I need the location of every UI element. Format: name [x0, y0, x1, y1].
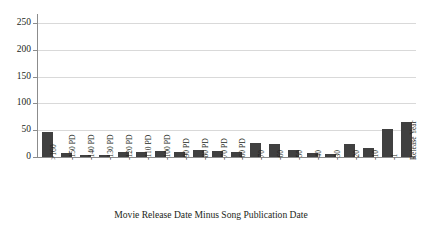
y-tick-label: 200 [1, 45, 31, 55]
x-tick-label: -90 PD [183, 138, 191, 160]
y-tick-mark [33, 50, 38, 51]
x-tick-label: -110 PD [145, 135, 153, 160]
x-tick-label: -150 PD [69, 134, 77, 160]
x-tick-label: -80 PD [202, 138, 210, 160]
y-tick-label: 150 [1, 72, 31, 82]
x-tick-label: -1 [391, 154, 399, 160]
x-tick-label: -70 PD [221, 138, 229, 160]
y-tick-mark [33, 103, 38, 104]
x-tick-label: -20 [353, 150, 361, 160]
x-tick-label: -60 PD [239, 138, 247, 160]
y-tick-mark [33, 157, 38, 158]
y-tick-mark [33, 130, 38, 131]
y-axis-tick-labels: 250200150100500 [0, 0, 31, 234]
y-tick-label: 100 [1, 98, 31, 108]
x-tick-label: >160 [50, 144, 58, 160]
y-tick-mark [33, 23, 38, 24]
x-axis-title: Movie Release Date Minus Song Publicatio… [0, 209, 422, 221]
y-tick-label: 250 [1, 18, 31, 28]
x-tick-label: -70 [258, 150, 266, 160]
y-tick-label: 0 [1, 152, 31, 162]
y-tick-mark [33, 77, 38, 78]
x-tick-label: Release Year [410, 121, 418, 160]
x-tick-label: -60 [277, 150, 285, 160]
x-tick-label: -130 PD [107, 134, 115, 160]
x-tick-label: -120 PD [126, 134, 134, 160]
x-tick-label: -30 [334, 150, 342, 160]
x-tick-label: -50 [296, 150, 304, 160]
x-tick-label: -140 PD [88, 134, 96, 160]
x-axis-tick-labels: >160-150 PD-140 PD-130 PD-120 PD-110 PD-… [38, 158, 416, 210]
x-tick-label: -100 PD [164, 134, 172, 160]
y-tick-label: 50 [1, 125, 31, 135]
bar-chart-figure: 250200150100500 >160-150 PD-140 PD-130 P… [0, 0, 422, 234]
x-tick-label: -10 [372, 150, 380, 160]
x-tick-label: -40 [315, 150, 323, 160]
